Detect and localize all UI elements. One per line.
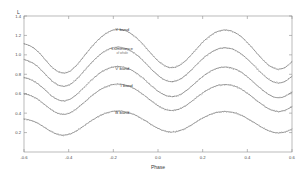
data-point: [104, 52, 105, 53]
data-point: [96, 92, 97, 93]
data-point: [240, 35, 241, 36]
data-point: [258, 86, 259, 87]
data-point: [119, 85, 120, 86]
data-point: [34, 82, 35, 83]
data-point: [291, 107, 292, 108]
data-point: [107, 69, 108, 70]
data-point: [199, 79, 200, 80]
data-point: [193, 84, 194, 85]
data-point: [212, 87, 213, 88]
data-point: [108, 32, 109, 33]
data-point: [151, 53, 152, 54]
data-point: [252, 63, 253, 64]
data-point: [171, 132, 172, 133]
data-point: [140, 76, 141, 77]
data-point: [115, 85, 116, 86]
data-point: [191, 70, 192, 71]
data-point: [271, 80, 272, 81]
data-point: [47, 62, 48, 63]
data-point: [76, 131, 77, 132]
data-point: [133, 52, 134, 53]
data-point: [274, 132, 275, 133]
data-point: [189, 88, 190, 89]
data-point: [168, 96, 169, 97]
data-point: [279, 133, 280, 134]
data-point: [95, 93, 96, 94]
y-tick-label: 0.6: [15, 91, 21, 96]
data-point: [31, 80, 32, 81]
data-point: [160, 92, 161, 93]
data-point: [225, 111, 226, 112]
data-point: [192, 85, 193, 86]
data-point: [112, 111, 113, 112]
data-point: [202, 118, 203, 119]
data-point: [220, 31, 221, 32]
data-point: [67, 72, 68, 73]
data-point: [217, 68, 218, 69]
data-point: [260, 102, 261, 103]
data-point: [96, 58, 97, 59]
data-point: [111, 67, 112, 68]
data-point: [186, 90, 187, 91]
data-point: [261, 72, 262, 73]
data-point: [98, 117, 99, 118]
data-point: [231, 68, 232, 69]
data-point: [30, 79, 31, 80]
data-point: [215, 50, 216, 51]
data-point: [195, 65, 196, 66]
data-point: [217, 85, 218, 86]
data-point: [278, 70, 279, 71]
data-point: [247, 77, 248, 78]
data-point: [102, 115, 103, 116]
data-point: [193, 53, 194, 54]
data-point: [206, 56, 207, 57]
data-point: [281, 68, 282, 69]
data-point: [128, 32, 129, 33]
data-point: [202, 93, 203, 94]
data-point: [187, 73, 188, 74]
data-point: [133, 88, 134, 89]
data-point: [135, 37, 136, 38]
data-point: [140, 77, 141, 78]
data-point: [63, 100, 64, 101]
data-point: [72, 97, 73, 98]
data-point: [179, 130, 180, 131]
data-point: [280, 132, 281, 133]
data-point: [227, 67, 228, 68]
data-point: [81, 104, 82, 105]
data-point: [224, 67, 225, 68]
data-point: [142, 44, 143, 45]
data-point: [77, 93, 78, 94]
data-point: [231, 112, 232, 113]
data-point: [284, 81, 285, 82]
data-point: [73, 110, 74, 111]
data-point: [256, 53, 257, 54]
data-point: [200, 78, 201, 79]
data-point: [181, 78, 182, 79]
data-point: [136, 37, 137, 38]
data-point: [195, 51, 196, 52]
data-point: [167, 80, 168, 81]
data-point: [148, 66, 149, 67]
data-point: [262, 127, 263, 128]
data-point: [266, 92, 267, 93]
data-point: [62, 114, 63, 115]
data-point: [236, 86, 237, 87]
data-point: [274, 110, 275, 111]
data-point: [92, 62, 93, 63]
data-point: [203, 42, 204, 43]
data-point: [86, 124, 87, 125]
data-point: [138, 90, 139, 91]
data-point: [144, 61, 145, 62]
data-point: [48, 129, 49, 130]
data-point: [247, 43, 248, 44]
data-point: [230, 68, 231, 69]
data-point: [65, 134, 66, 135]
data-point: [200, 45, 201, 46]
data-point: [281, 97, 282, 98]
data-point: [170, 110, 171, 111]
data-point: [232, 112, 233, 113]
data-point: [50, 94, 51, 95]
data-point: [104, 88, 105, 89]
data-point: [242, 55, 243, 56]
